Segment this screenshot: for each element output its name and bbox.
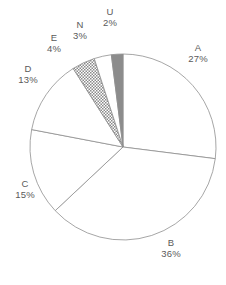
pie-label-n-value: 3%	[58, 30, 102, 41]
pie-label-a: A 27%	[176, 42, 220, 64]
pie-label-d: D 13%	[6, 63, 50, 85]
pie-label-u: U 2%	[88, 6, 132, 28]
pie-label-u-name: U	[88, 6, 132, 17]
pie-label-u-value: 2%	[88, 17, 132, 28]
pie-label-b: B 36%	[148, 237, 194, 259]
pie-chart: A 27% B 36% C 15% D 13% E 4% N 3% U 2%	[0, 0, 226, 285]
pie-label-c-value: 15%	[2, 189, 48, 200]
pie-label-c: C 15%	[2, 178, 48, 200]
pie-label-d-name: D	[6, 63, 50, 74]
pie-label-c-name: C	[2, 178, 48, 189]
pie-slice-a	[123, 54, 216, 159]
pie-label-b-value: 36%	[148, 248, 194, 259]
pie-label-d-value: 13%	[6, 74, 50, 85]
pie-label-b-name: B	[148, 237, 194, 248]
pie-slices-group	[30, 54, 216, 240]
pie-label-a-value: 27%	[176, 53, 220, 64]
pie-label-e-value: 4%	[32, 43, 76, 54]
pie-label-a-name: A	[176, 42, 220, 53]
